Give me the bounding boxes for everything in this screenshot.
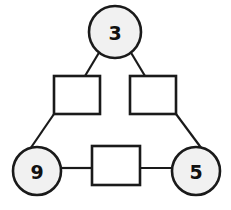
edge-box-right-to-circle-right — [176, 114, 202, 149]
box-right-shape[interactable] — [130, 76, 176, 114]
circle-bottom-right[interactable]: 5 — [172, 147, 220, 195]
circle-top[interactable]: 3 — [89, 6, 141, 58]
circle-bottom-right-label: 5 — [189, 161, 202, 183]
diagram-canvas: 395 — [0, 0, 231, 210]
triangle-number-puzzle-diagram: 395 — [0, 0, 231, 210]
edge-box-left-to-circle-left — [30, 114, 54, 149]
circle-bottom-left-label: 9 — [30, 161, 43, 183]
edge-top-to-box-left — [85, 51, 100, 76]
box-bottom[interactable] — [92, 146, 140, 185]
circle-top-label: 3 — [108, 22, 121, 44]
box-right[interactable] — [130, 76, 176, 114]
box-left[interactable] — [54, 76, 100, 114]
edge-top-to-box-right — [130, 51, 145, 76]
box-bottom-shape[interactable] — [92, 146, 140, 185]
box-left-shape[interactable] — [54, 76, 100, 114]
circle-bottom-left[interactable]: 9 — [13, 147, 61, 195]
